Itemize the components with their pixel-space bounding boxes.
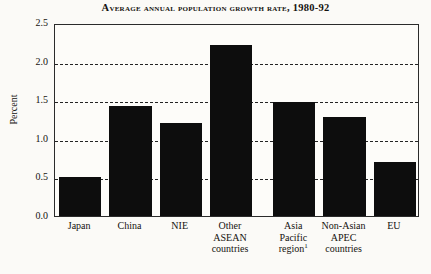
y-tick-label: 2.5 [18, 17, 48, 28]
y-tick-label: 1.0 [18, 133, 48, 144]
population-growth-bar-chart: Average annual population growth rate, 1… [0, 0, 431, 274]
x-axis-ticks: JapanChinaNIEOtherASEANcountriesAsiaPaci… [54, 220, 419, 272]
y-tick-label: 1.5 [18, 94, 48, 105]
y-tick-label: 2.0 [18, 56, 48, 67]
x-tick-label: EU [357, 220, 431, 232]
y-axis-ticks: 0.00.51.01.52.02.5 [0, 24, 431, 217]
y-tick-label: 0.5 [18, 171, 48, 182]
chart-title: Average annual population growth rate, 1… [0, 2, 431, 13]
